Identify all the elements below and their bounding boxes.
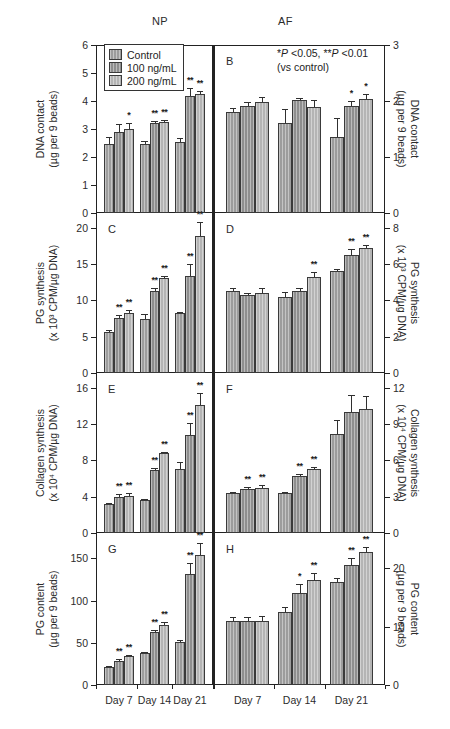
error-bar — [119, 124, 120, 132]
error-bar-cap — [106, 137, 112, 138]
x-tick-mark — [137, 685, 138, 689]
y-tick-label-C: 20 — [56, 222, 88, 234]
significance-marker: ** — [348, 238, 354, 245]
bar-D-Day21-Control — [330, 271, 344, 373]
error-bar-cap — [259, 288, 265, 289]
error-bar-cap — [311, 100, 317, 101]
error-bar-cap — [141, 652, 147, 653]
bar-C-Day14-200ngmL — [159, 278, 169, 373]
error-bar-cap — [177, 640, 183, 641]
x-axis-label-H-2: Day 21 — [335, 694, 368, 706]
panel-letter-F: F — [226, 383, 233, 395]
bar-B-Day7-100ngmL — [240, 106, 254, 213]
bar-E-Day7-100ngmL — [114, 497, 124, 533]
bar-B-Day14-200ngmL — [307, 107, 321, 213]
error-bar-cap — [230, 492, 236, 493]
error-bar — [200, 543, 201, 555]
y-tick-label-A: 3 — [56, 123, 88, 135]
x-tick-mark — [385, 685, 386, 689]
panel-letter-G: G — [108, 543, 117, 555]
y-tick-label-C: 15 — [56, 258, 88, 270]
bar-G-Day14-Control — [140, 653, 150, 685]
significance-marker: ** — [311, 456, 317, 463]
figure-root: NP AF A0123456DNA contact(µg per 9 beads… — [0, 0, 450, 729]
bar-A-Day21-200ngmL — [195, 94, 205, 213]
bar-C-Day7-100ngmL — [114, 318, 124, 373]
error-bar-cap — [230, 108, 236, 109]
x-tick-mark — [172, 685, 173, 689]
y-tick-mark — [91, 101, 96, 102]
bar-D-Day7-100ngmL — [240, 295, 254, 373]
x-tick-mark — [96, 685, 97, 689]
y-tick-mark — [385, 388, 390, 389]
bar-C-Day7-Control — [104, 332, 114, 373]
error-bar-cap — [230, 288, 236, 289]
x-tick-mark — [214, 685, 215, 689]
significance-marker: ** — [187, 253, 193, 260]
error-bar — [109, 137, 110, 145]
bar-H-Day21-Control — [330, 582, 344, 685]
legend-swatch-200-icon — [109, 75, 122, 86]
bar-C-Day7-200ngmL — [124, 313, 134, 373]
y-axis-label-line2: (µg per 9 beads) — [396, 90, 408, 167]
y-tick-mark — [91, 157, 96, 158]
bar-E-Day7-200ngmL — [124, 496, 134, 533]
bar-H-Day7-Control — [226, 621, 240, 685]
error-bar-cap — [151, 630, 157, 631]
bar-G-Day14-100ngmL — [150, 632, 160, 685]
bar-E-Day14-100ngmL — [150, 470, 160, 533]
legend-item: 100 ng/mL — [109, 61, 177, 74]
y-tick-label-E: 12 — [56, 418, 88, 430]
legend-label-100: 100 ng/mL — [127, 62, 177, 74]
error-bar-cap — [363, 245, 369, 246]
bar-E-Day21-100ngmL — [185, 435, 195, 533]
bar-A-Day14-100ngmL — [150, 123, 160, 213]
y-tick-mark — [385, 101, 390, 102]
bar-D-Day7-200ngmL — [255, 293, 269, 373]
y-tick-mark — [91, 601, 96, 602]
bar-A-Day21-100ngmL — [185, 96, 195, 213]
significance-marker: ** — [116, 483, 122, 490]
significance-note-line2: (vs control) — [277, 61, 368, 75]
legend-swatch-100-icon — [109, 62, 122, 73]
bar-C-Day21-200ngmL — [195, 236, 205, 373]
y-tick-mark — [385, 373, 390, 374]
error-bar-cap — [161, 452, 167, 453]
error-bar-cap — [311, 573, 317, 574]
y-tick-mark — [91, 185, 96, 186]
error-bar-cap — [126, 310, 132, 311]
y-tick-mark — [385, 424, 390, 425]
bar-E-Day21-200ngmL — [195, 405, 205, 533]
significance-marker: ** — [197, 80, 203, 87]
error-bar — [314, 100, 315, 107]
y-axis-label-F: Collagen synthesis(x 10⁴ CPM/µg DNA) — [395, 373, 421, 533]
error-bar — [285, 109, 286, 124]
error-bar-cap — [296, 288, 302, 289]
bar-F-Day7-100ngmL — [240, 489, 254, 533]
bar-C-Day14-Control — [140, 319, 150, 373]
error-bar — [190, 264, 191, 276]
bar-B-Day14-100ngmL — [292, 100, 306, 213]
bar-D-Day14-100ngmL — [292, 291, 306, 373]
error-bar-cap — [244, 617, 250, 618]
y-axis-label-line2: (x 10⁴ CPM/µg DNA) — [47, 404, 59, 502]
legend-swatch-control-icon — [109, 49, 122, 60]
y-tick-label-G: 50 — [56, 637, 88, 649]
significance-marker: ** — [126, 482, 132, 489]
error-bar-cap — [197, 393, 203, 394]
significance-marker: ** — [197, 382, 203, 389]
legend-item: 200 ng/mL — [109, 74, 177, 87]
error-bar-cap — [106, 503, 112, 504]
bar-G-Day7-Control — [104, 667, 114, 685]
bar-D-Day21-200ngmL — [359, 248, 373, 373]
error-bar-cap — [348, 395, 354, 396]
error-bar-cap — [259, 485, 265, 486]
significance-marker: * — [350, 90, 353, 97]
group-header-np: NP — [152, 15, 168, 27]
significance-marker: ** — [187, 412, 193, 419]
y-axis-label-E: Collagen synthesis(x 10⁴ CPM/µg DNA) — [34, 373, 60, 533]
bar-H-Day21-200ngmL — [359, 552, 373, 685]
bar-H-Day14-Control — [278, 612, 292, 685]
error-bar-cap — [230, 617, 236, 618]
legend: Control 100 ng/mL 200 ng/mL — [104, 44, 184, 91]
